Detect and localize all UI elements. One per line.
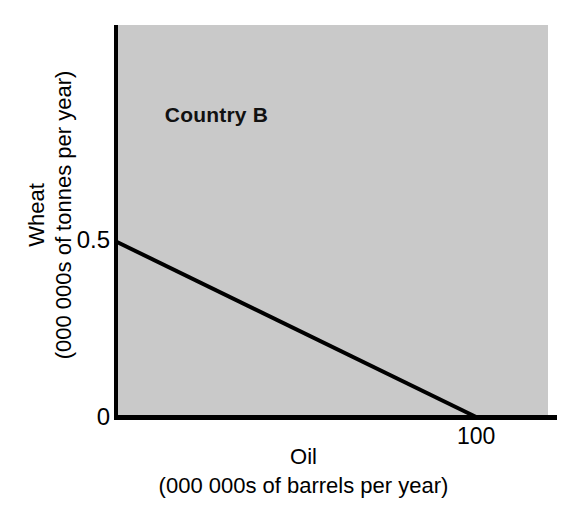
y-tick-label-0-text: 0	[97, 403, 110, 431]
y-axis-units-text: (000 000s of tonnes per year)	[51, 71, 77, 360]
x-axis-title-text: Oil	[290, 444, 317, 469]
region-label-text: Country B	[165, 103, 268, 126]
ppf-chart-figure: Country B 0.5 0 100 Wheat (000 000s of t…	[0, 0, 565, 523]
plot-area	[117, 25, 548, 417]
x-axis-title: Oil	[0, 444, 565, 470]
x-axis-units: (000 000s of barrels per year)	[0, 473, 565, 499]
x-axis-line	[114, 415, 557, 420]
y-axis-title-text: Wheat	[24, 183, 50, 247]
region-label: Country B	[0, 103, 565, 127]
x-axis-units-text: (000 000s of barrels per year)	[159, 473, 449, 498]
y-axis-line	[114, 25, 118, 419]
y-tick-label-0-5-text: 0.5	[77, 226, 110, 254]
